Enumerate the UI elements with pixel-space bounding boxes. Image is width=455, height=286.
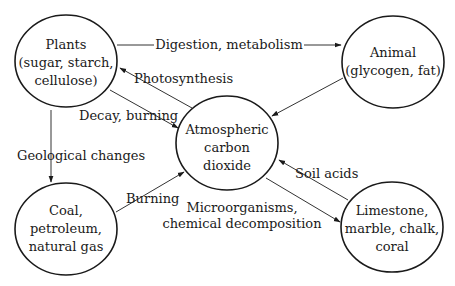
svg-text:cellulose): cellulose) bbox=[34, 73, 97, 88]
svg-text:Atmospheric: Atmospheric bbox=[184, 122, 268, 137]
node-atmospheric-co2: Atmospheric carbon dioxide bbox=[176, 96, 278, 190]
edge-animal-respiration bbox=[272, 78, 343, 116]
node-coal: Coal, petroleum, natural gas bbox=[15, 183, 117, 275]
svg-text:coral: coral bbox=[375, 239, 408, 254]
svg-text:Plants: Plants bbox=[46, 37, 87, 52]
svg-text:Coal,: Coal, bbox=[49, 203, 83, 218]
svg-text:carbon: carbon bbox=[204, 140, 250, 155]
node-animal: Animal (glycogen, fat) bbox=[342, 16, 444, 108]
label-geological: Geological changes bbox=[17, 148, 145, 163]
svg-text:petroleum,: petroleum, bbox=[30, 221, 102, 236]
node-plants: Plants (sugar, starch, cellulose) bbox=[15, 15, 117, 107]
node-limestone: Limestone, marble, chalk, coral bbox=[341, 182, 443, 272]
label-microorganisms-1: Microorganisms, bbox=[186, 200, 297, 215]
svg-text:natural gas: natural gas bbox=[29, 239, 104, 254]
svg-text:(glycogen, fat): (glycogen, fat) bbox=[345, 63, 441, 78]
label-burning: Burning bbox=[126, 191, 179, 206]
label-photosynthesis: Photosynthesis bbox=[134, 71, 233, 86]
label-soil-acids: Soil acids bbox=[295, 166, 358, 181]
svg-text:dioxide: dioxide bbox=[203, 158, 251, 173]
svg-text:marble, chalk,: marble, chalk, bbox=[345, 221, 439, 236]
label-decay: Decay, burning bbox=[79, 108, 178, 123]
svg-text:Limestone,: Limestone, bbox=[356, 203, 429, 218]
svg-text:(sugar, starch,: (sugar, starch, bbox=[19, 55, 114, 70]
svg-text:Animal: Animal bbox=[369, 45, 416, 60]
carbon-cycle-diagram: Digestion, metabolism Photosynthesis Dec… bbox=[0, 0, 455, 286]
label-digestion: Digestion, metabolism bbox=[155, 37, 303, 52]
label-microorganisms-2: chemical decomposition bbox=[162, 216, 322, 231]
